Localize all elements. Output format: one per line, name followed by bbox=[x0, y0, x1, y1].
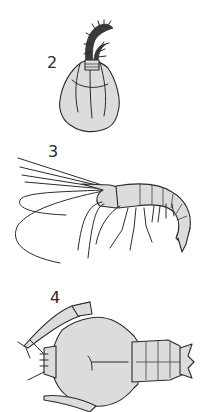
shrimp-illustration bbox=[0, 140, 205, 270]
figure-4: 4 bbox=[0, 270, 205, 412]
figure-3: 3 bbox=[0, 140, 205, 270]
figure-2: 2 bbox=[0, 0, 205, 140]
crab-illustration bbox=[0, 270, 205, 412]
barnacle-illustration bbox=[0, 0, 205, 140]
